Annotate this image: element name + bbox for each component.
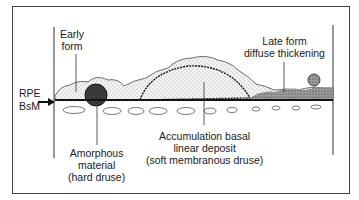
label-rpe: RPE bbox=[19, 87, 41, 99]
label-bsm: BsM bbox=[19, 100, 40, 112]
hard-druse bbox=[85, 84, 107, 106]
label-accumulation: Accumulation basal linear deposit (soft … bbox=[146, 130, 263, 166]
label-early-form: Early form bbox=[60, 28, 84, 52]
label-late-form: Late form diffuse thickening bbox=[244, 35, 325, 59]
label-amorphous: Amorphous material (hard druse) bbox=[68, 147, 125, 183]
choroid-vessels bbox=[63, 105, 321, 115]
small-druse bbox=[308, 74, 320, 86]
drusen-illustration bbox=[0, 0, 359, 200]
arrow-right-icon bbox=[38, 98, 55, 106]
